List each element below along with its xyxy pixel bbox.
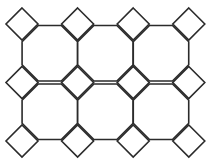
octagon-tile <box>78 26 133 81</box>
tiling-canvas: Truncated square tiling Line drawing of … <box>0 0 218 164</box>
octagon-tile <box>133 26 188 81</box>
tiling-figure: Truncated square tiling Line drawing of … <box>0 0 218 164</box>
octagon-tile <box>78 84 133 139</box>
octagon-tile <box>22 26 77 81</box>
octagon-tile <box>133 84 188 139</box>
octagon-tile <box>22 84 77 139</box>
